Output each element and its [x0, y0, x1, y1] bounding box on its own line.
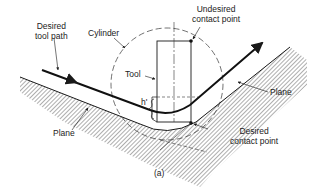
- label-undesired-contact-point: Undesired contact point: [192, 4, 240, 24]
- leader-undesired-contact: [193, 27, 200, 39]
- leader-cylinder: [114, 38, 125, 48]
- label-h-prime: h': [141, 97, 147, 107]
- label-line: Desired: [230, 126, 278, 136]
- label-line: contact point: [230, 136, 278, 146]
- tool-path-arrow-left: [70, 80, 76, 82]
- label-line: Undesired: [192, 4, 240, 14]
- label-line: contact point: [192, 14, 240, 24]
- label-tool: Tool: [125, 69, 141, 79]
- label-plane-right: Plane: [270, 87, 292, 97]
- label-line: Desired: [35, 21, 68, 31]
- tool-path-arrow-right: [255, 43, 262, 49]
- undesired-contact-point-dot: [189, 39, 193, 43]
- label-plane-left: Plane: [53, 128, 75, 138]
- label-cylinder: Cylinder: [88, 28, 119, 38]
- leader-desired-tool-path: [54, 38, 58, 70]
- label-desired-tool-path: Desired tool path: [35, 21, 68, 41]
- label-desired-contact-point: Desired contact point: [230, 126, 278, 146]
- figure-caption: (a): [154, 168, 164, 178]
- label-line: tool path: [35, 31, 68, 41]
- leader-tool: [145, 76, 155, 79]
